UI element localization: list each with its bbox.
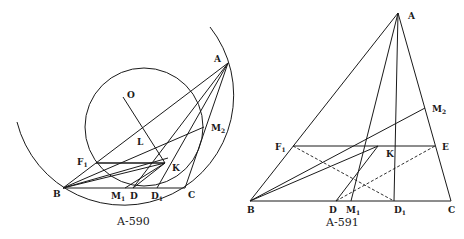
label-M2: M2 — [211, 123, 225, 134]
segment-AC — [185, 63, 228, 188]
segment-BM2 — [63, 127, 204, 188]
label-F1: F1 — [77, 157, 88, 168]
label-L: L — [137, 137, 144, 147]
segment-BK — [250, 146, 378, 201]
label-K: K — [172, 163, 181, 173]
label-O: O — [127, 90, 135, 100]
label-D: D — [130, 191, 138, 201]
label-M1: M1 — [346, 205, 360, 216]
segment-AD1 — [394, 13, 398, 201]
label-F1: F1 — [275, 142, 286, 153]
caption-a591: A-591 — [325, 216, 359, 229]
figure-a590: A O L M2 F1 K B M1 D D1 C A-590 — [17, 27, 234, 228]
label-D1: D1 — [394, 205, 406, 216]
circumcircle-arc — [17, 27, 234, 205]
label-D1: D1 — [151, 191, 163, 202]
segment-AB — [250, 13, 398, 201]
label-D: D — [329, 205, 337, 215]
segment-AC — [398, 13, 451, 201]
label-A: A — [407, 11, 416, 21]
label-M2: M2 — [432, 104, 446, 115]
dashed-F1D1 — [293, 146, 394, 201]
geometry-diagram: A O L M2 F1 K B M1 D D1 C A-590 A M2 F1 … — [0, 0, 464, 239]
label-M1: M1 — [111, 191, 125, 202]
caption-a590: A-590 — [116, 215, 150, 228]
segment-BM2 — [250, 108, 425, 201]
figure-a591: A M2 F1 K E B D M1 D1 C A-591 — [247, 11, 455, 229]
label-E: E — [442, 142, 449, 152]
label-B: B — [247, 205, 255, 215]
label-C: C — [448, 205, 455, 215]
label-K: K — [386, 149, 395, 159]
label-A: A — [213, 54, 222, 64]
label-C: C — [188, 190, 195, 200]
label-B: B — [53, 189, 61, 199]
segment-KD — [336, 146, 378, 201]
